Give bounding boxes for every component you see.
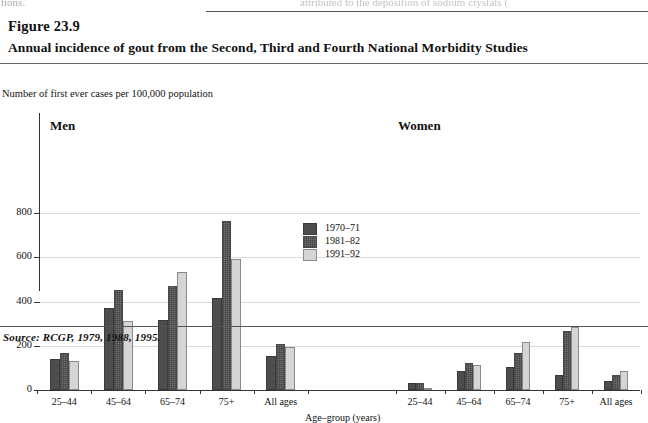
bar <box>212 298 222 390</box>
x-axis-line <box>39 390 640 391</box>
bar <box>416 383 424 390</box>
bar <box>231 259 241 390</box>
x-axis-title: Age–group (years) <box>305 412 380 423</box>
x-category-label: 65–74 <box>148 396 197 407</box>
header-divider-rule <box>0 63 648 64</box>
bar <box>285 347 295 390</box>
x-tick-mark <box>543 390 544 394</box>
gridline <box>40 302 640 303</box>
x-tick-mark <box>592 390 593 394</box>
x-category-label: 45–64 <box>94 396 143 407</box>
bar <box>604 381 612 390</box>
bar <box>555 375 563 390</box>
bar <box>424 388 432 390</box>
panel-title-women: Women <box>398 118 441 134</box>
x-tick-mark <box>308 390 309 394</box>
x-tick-mark <box>641 390 642 394</box>
bar-chart: 0200400600800 25–4445–6465–7475+All ages… <box>0 100 648 315</box>
cut-off-text-right: attributed to the deposition of sodium c… <box>300 0 508 8</box>
y-axis-title: Number of first ever cases per 100,000 p… <box>2 88 213 99</box>
bar <box>465 363 473 390</box>
bar <box>168 286 178 390</box>
x-category-label: All ages <box>256 396 305 407</box>
x-tick-mark <box>145 390 146 394</box>
y-tick-mark <box>34 302 40 303</box>
y-tick-label: 600 <box>4 250 32 261</box>
y-tick-label: 400 <box>4 295 32 306</box>
y-tick-label: 0 <box>4 383 32 394</box>
bar <box>177 272 187 390</box>
cut-off-text-left: tions. <box>1 0 25 8</box>
legend-swatch-1991-92 <box>303 249 317 261</box>
bar <box>50 359 60 390</box>
bar <box>522 342 530 390</box>
bar <box>620 371 628 390</box>
bar <box>612 375 620 390</box>
figure-title: Annual incidence of gout from the Second… <box>8 40 528 56</box>
bar <box>408 383 416 390</box>
bar <box>514 353 522 390</box>
x-category-label: 75+ <box>545 396 589 407</box>
bar <box>506 367 514 390</box>
bar <box>563 331 571 390</box>
bar <box>276 344 286 390</box>
panel-title-men: Men <box>50 118 75 134</box>
bar <box>571 327 579 390</box>
x-tick-mark <box>200 390 201 394</box>
bar <box>457 371 465 390</box>
x-category-label: 65–74 <box>496 396 540 407</box>
x-tick-mark <box>91 390 92 394</box>
legend-label-1981-82: 1981–82 <box>325 235 360 246</box>
y-axis-line <box>39 113 40 291</box>
source-note: Source: RCGP, 1979, 1988, 1995. <box>3 331 161 343</box>
top-divider-rule <box>206 11 648 12</box>
y-tick-label: 800 <box>4 206 32 217</box>
bar <box>473 365 481 390</box>
bar <box>60 353 70 390</box>
bottom-divider-rule <box>0 326 648 327</box>
legend-label-1970-71: 1970–71 <box>325 222 360 233</box>
bar <box>104 308 114 390</box>
x-category-label: 75+ <box>202 396 251 407</box>
x-category-label: All ages <box>594 396 638 407</box>
x-tick-mark <box>254 390 255 394</box>
x-category-label: 45–64 <box>447 396 491 407</box>
legend-label-1991-92: 1991–92 <box>325 248 360 259</box>
legend-swatch-1981-82 <box>303 236 317 248</box>
bar <box>266 356 276 390</box>
cut-off-body-text: tions. attributed to the deposition of s… <box>0 0 648 10</box>
gridline <box>40 213 640 214</box>
x-tick-mark <box>37 390 38 394</box>
figure-number: Figure 23.9 <box>8 18 80 35</box>
x-category-label: 25–44 <box>40 396 89 407</box>
legend-swatch-1970-71 <box>303 223 317 235</box>
bar <box>222 221 232 390</box>
x-tick-mark <box>396 390 397 394</box>
x-category-label: 25–44 <box>398 396 442 407</box>
x-tick-mark <box>445 390 446 394</box>
x-tick-mark <box>494 390 495 394</box>
y-tick-mark <box>34 346 40 347</box>
bar <box>69 361 79 390</box>
